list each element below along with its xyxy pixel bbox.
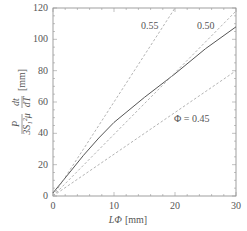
- series-line: [53, 8, 175, 196]
- x-tick-label: 10: [109, 200, 119, 211]
- series-line: [53, 71, 236, 196]
- svg-text:dT: dT: [21, 95, 32, 107]
- y-tick-label: 60: [38, 96, 48, 107]
- chart: 0 20 40 60 80 100 120 0 10 20 30 0.55 0.…: [0, 0, 247, 231]
- svg-text:dt: dt: [10, 98, 21, 106]
- x-tick-label: 20: [170, 200, 180, 211]
- y-tick-label: 0: [43, 190, 48, 201]
- y-tick-label: 120: [33, 2, 48, 13]
- y-tick-label: 20: [38, 159, 48, 170]
- annotation-phi-055: 0.55: [141, 20, 159, 31]
- svg-text:3S₁²μ: 3S₁²μ: [21, 113, 32, 136]
- svg-text:[mm]: [mm]: [16, 69, 27, 91]
- x-tick-label: 0: [51, 200, 56, 211]
- x-axis-label: LΦ[mm]: [108, 214, 147, 225]
- series-line: [53, 27, 236, 193]
- axis-ticks: [53, 8, 236, 196]
- series-line: [53, 11, 236, 196]
- x-tick-label: 30: [231, 200, 241, 211]
- y-tick-label: 40: [38, 127, 48, 138]
- svg-text:P: P: [10, 121, 21, 128]
- y-tick-label: 100: [33, 33, 48, 44]
- plot-frame: [53, 8, 236, 196]
- annotation-phi-050: 0.50: [197, 20, 215, 31]
- y-tick-label: 80: [38, 65, 48, 76]
- series-group: [53, 8, 236, 196]
- y-axis-label: P 3S₁²μ dt dT [mm]: [10, 69, 32, 136]
- annotation-phi-045: Φ = 0.45: [174, 113, 209, 124]
